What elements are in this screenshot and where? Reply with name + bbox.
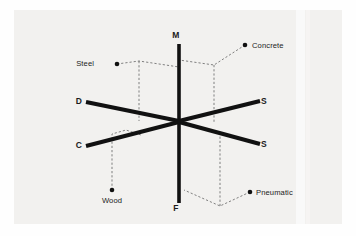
marker-concrete [243, 43, 248, 48]
material-label-wood: Wood [102, 196, 122, 205]
material-label-steel: Steel [76, 59, 94, 68]
axis-label-s-lower: S [261, 139, 267, 149]
marker-wood [110, 188, 115, 193]
material-label-pneumatic: Pneumatic [256, 188, 293, 197]
scan-light-band [296, 10, 305, 224]
marker-steel [115, 62, 120, 67]
axis-label-f: F [173, 203, 178, 213]
marker-pneumatic [248, 190, 253, 195]
axis-label-s-upper: S [261, 96, 267, 106]
axis-label-c: C [76, 140, 82, 150]
material-label-concrete: Concrete [252, 41, 284, 50]
diagram-canvas: M F D S C S Steel Concrete Wood Pneumati… [0, 0, 356, 236]
axis-diagram-svg: M F D S C S Steel Concrete Wood Pneumati… [0, 0, 356, 236]
scan-light-band-secondary [306, 10, 310, 224]
axis-label-m: M [172, 30, 179, 40]
axis-label-d: D [76, 96, 82, 106]
